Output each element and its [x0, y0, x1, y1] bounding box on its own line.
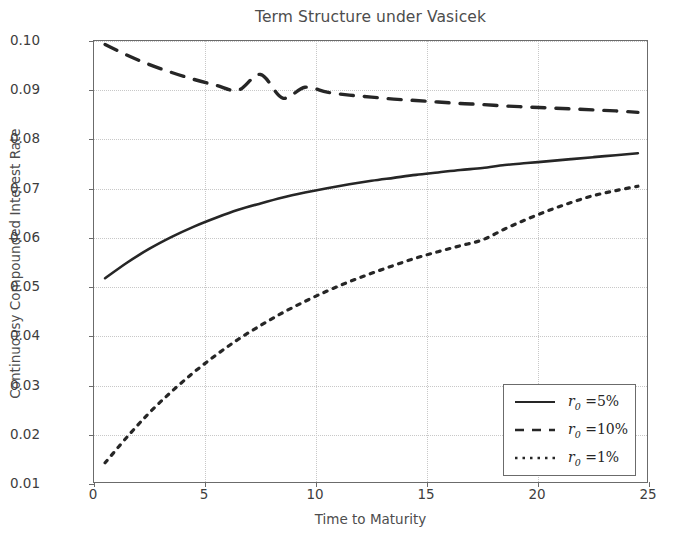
legend-label-r0-10: r0 =10%	[568, 421, 628, 440]
y-tick-label: 0.07	[0, 180, 40, 196]
y-tick-label: 0.10	[0, 32, 40, 48]
y-tick-label: 0.08	[0, 130, 40, 146]
x-tick-label: 10	[306, 486, 323, 502]
y-tick-label: 0.04	[0, 327, 40, 343]
legend: r0 =5% r0 =10% r0 =1%	[503, 384, 636, 476]
x-tick-label: 0	[89, 486, 98, 502]
legend-item: r0 =5%	[504, 388, 635, 416]
y-tick-label: 0.02	[0, 426, 40, 442]
legend-line-sample-dashdot	[513, 452, 557, 464]
y-tick-label: 0.05	[0, 278, 40, 294]
legend-item: r0 =1%	[504, 444, 635, 472]
y-axis-label-text: Continuousy Compounded Interest Rate	[7, 128, 23, 416]
series-line-solid	[105, 153, 638, 278]
figure-canvas: Term Structure under Vasicek Continuousy…	[0, 0, 691, 545]
x-tick-label: 25	[639, 486, 656, 502]
legend-item: r0 =10%	[504, 416, 635, 444]
chart-title: Term Structure under Vasicek	[93, 8, 648, 26]
y-tick-label: 0.03	[0, 377, 40, 393]
legend-label-r0-1: r0 =1%	[568, 449, 619, 468]
legend-line-sample-solid	[513, 396, 557, 408]
x-tick-label: 20	[528, 486, 545, 502]
y-tick-label: 0.09	[0, 81, 40, 97]
legend-label-r0-5: r0 =5%	[568, 393, 619, 412]
x-tick-label: 5	[200, 486, 209, 502]
y-tick-label: 0.06	[0, 229, 40, 245]
legend-line-sample-dashed	[513, 424, 557, 436]
plot-area: r0 =5% r0 =10% r0 =1%	[93, 40, 648, 483]
x-axis-label: Time to Maturity	[93, 511, 648, 527]
x-tick-label: 15	[417, 486, 434, 502]
y-tick-label: 0.01	[0, 475, 40, 491]
series-line-dashed	[105, 44, 638, 112]
